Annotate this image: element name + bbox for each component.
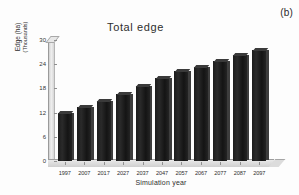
y-axis-title: Edge (ha) (Thousands) (14, 2, 29, 72)
bar-side-face (169, 78, 172, 160)
x-tick-mark (259, 162, 260, 165)
y-tick-label: 24 (28, 61, 46, 67)
y-tick-label: 30 (28, 37, 46, 43)
y-tick-label: 0 (28, 158, 46, 164)
bar[interactable] (155, 78, 169, 161)
y-tick-label: 12 (28, 109, 46, 115)
x-tick-mark (181, 162, 182, 165)
bar-side-face (188, 71, 191, 160)
y-axis-title-sub: (Thousands) (22, 2, 30, 72)
bar[interactable] (77, 107, 91, 161)
bar-face (58, 113, 72, 161)
bar-face (233, 55, 247, 161)
bar-side-face (227, 61, 230, 160)
bar[interactable] (116, 94, 130, 161)
x-tick-mark (123, 162, 124, 165)
x-tick-mark (162, 162, 163, 165)
bar[interactable] (174, 71, 188, 161)
x-tick-mark (104, 162, 105, 165)
x-tick-mark (240, 162, 241, 165)
bar-side-face (91, 107, 94, 160)
y-axis-title-main: Edge (ha) (14, 23, 21, 52)
y-tick-mark (54, 161, 57, 162)
bar-side-face (150, 86, 153, 160)
x-tick-mark (220, 162, 221, 165)
bar-face (194, 67, 208, 161)
x-tick-label: 2097 (244, 170, 274, 176)
bar[interactable] (58, 113, 72, 161)
bar-side-face (247, 55, 250, 160)
x-tick-mark (143, 162, 144, 165)
x-tick-mark (201, 162, 202, 165)
bar-face (213, 61, 227, 161)
x-axis-title: Simulation year (48, 179, 274, 186)
panel-letter: (b) (280, 7, 293, 18)
chart-title: Total edge (0, 21, 285, 33)
bar-side-face (130, 94, 133, 160)
bar-side-face (208, 67, 211, 160)
bar-face (136, 86, 150, 161)
plot-area: 0612182430 19972007201720272037204720572… (48, 40, 274, 161)
bar[interactable] (233, 55, 247, 161)
x-tick-mark (65, 162, 66, 165)
bar-side-face (111, 101, 114, 160)
bar-group (55, 40, 274, 161)
bar-side-face (266, 50, 269, 160)
bar-side-face (72, 113, 75, 160)
y-tick-label: 6 (28, 133, 46, 139)
bar-face (252, 50, 266, 161)
bar-face (116, 94, 130, 161)
bar[interactable] (252, 50, 266, 161)
y-axis (48, 40, 55, 161)
bar[interactable] (97, 101, 111, 161)
x-tick-mark (84, 162, 85, 165)
bar[interactable] (136, 86, 150, 161)
y-tick-label: 18 (28, 85, 46, 91)
bar-face (77, 107, 91, 161)
bar-face (174, 71, 188, 161)
bar-face (155, 78, 169, 161)
bar-face (97, 101, 111, 161)
bar[interactable] (213, 61, 227, 161)
bar[interactable] (194, 67, 208, 161)
figure-panel: (b) Total edge 0612182430 19972007201720… (0, 0, 299, 195)
